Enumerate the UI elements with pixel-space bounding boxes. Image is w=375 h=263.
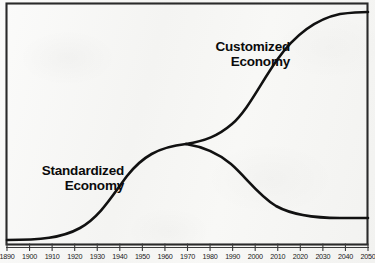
x-axis-tick-label: 1960 — [157, 252, 172, 261]
x-axis-tick-label: 2000 — [248, 252, 263, 261]
x-axis-tick-label: 1900 — [22, 252, 37, 261]
standardized-economy-label: Standardized Economy — [16, 163, 124, 193]
series-standardized-economy-line — [186, 144, 368, 218]
x-axis-tick-label: 2020 — [293, 252, 308, 261]
x-axis-tick-label: 2010 — [270, 252, 285, 261]
chart-plot-area — [0, 0, 375, 263]
x-axis-tick-label: 1970 — [180, 252, 195, 261]
x-axis-tick-label: 1890 — [0, 252, 15, 261]
x-axis-tick-label: 1950 — [135, 252, 150, 261]
customized-economy-label: Customized Economy — [196, 39, 290, 69]
x-axis-tick-label: 1920 — [67, 252, 82, 261]
customized-economy-label-line1: Customized — [196, 39, 290, 54]
x-axis-tick-label: 1940 — [112, 252, 127, 261]
customized-economy-label-line2: Economy — [196, 54, 290, 69]
series-customized-economy-line — [186, 12, 368, 144]
x-axis-tick-label: 2040 — [338, 252, 353, 261]
x-axis-tick-label: 2050 — [361, 252, 375, 261]
chart-figure: Customized Economy Standardized Economy … — [0, 0, 375, 263]
x-axis-tick-label: 1990 — [225, 252, 240, 261]
x-axis-tick-label: 1930 — [90, 252, 105, 261]
x-axis-tick-label: 1910 — [45, 252, 60, 261]
x-axis-tick-labels: 1890190019101920193019401950196019701980… — [0, 252, 375, 263]
plot-border — [7, 4, 368, 245]
x-axis-tick-label: 1980 — [203, 252, 218, 261]
standardized-economy-label-line2: Economy — [16, 178, 124, 193]
standardized-economy-label-line1: Standardized — [16, 163, 124, 178]
x-axis-tick-label: 2030 — [315, 252, 330, 261]
